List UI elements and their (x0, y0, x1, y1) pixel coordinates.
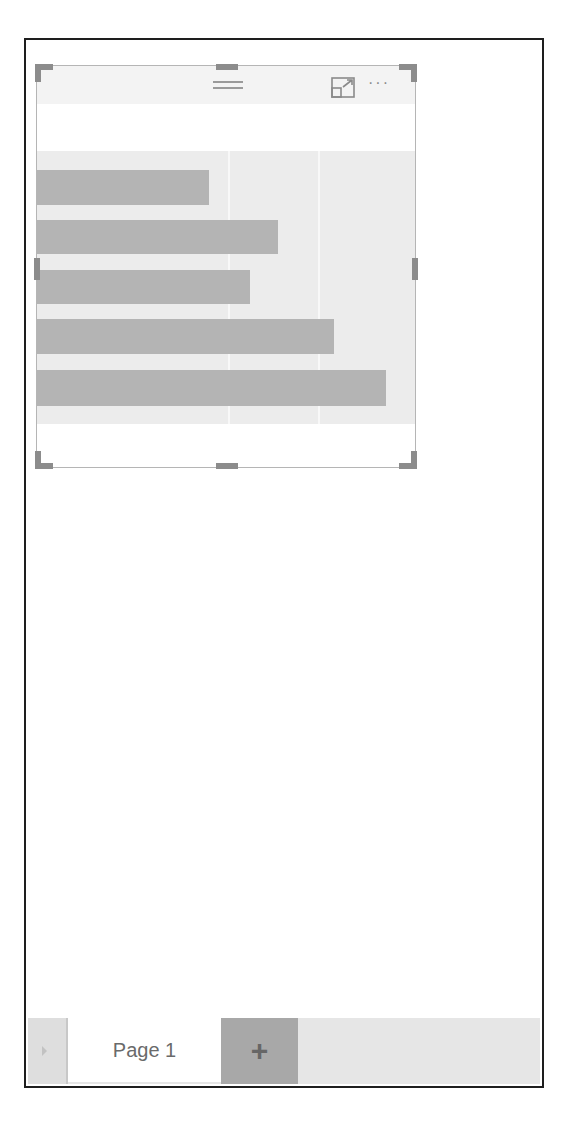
more-options-icon[interactable]: ··· (368, 74, 390, 92)
tab-label: Page 1 (113, 1039, 176, 1062)
tab-scroll-button[interactable] (28, 1018, 68, 1084)
bar-5[interactable] (37, 370, 386, 406)
bar-chart-visual[interactable]: ··· (36, 65, 416, 468)
resize-handle-top-right[interactable] (411, 64, 417, 82)
scroll-left-icon (42, 1046, 47, 1056)
plus-icon: + (251, 1034, 269, 1068)
resize-handle-right[interactable] (412, 258, 418, 280)
resize-handle-top[interactable] (216, 64, 238, 70)
focus-mode-icon[interactable] (331, 77, 355, 98)
resize-handle-top-left[interactable] (35, 64, 41, 82)
bar-3[interactable] (37, 270, 250, 304)
page-tab-bar: Page 1 + (28, 1018, 540, 1084)
resize-handle-bottom[interactable] (216, 463, 238, 469)
add-page-button[interactable]: + (221, 1018, 298, 1084)
resize-handle-bottom-left[interactable] (35, 451, 41, 469)
tab-page-1[interactable]: Page 1 (68, 1018, 221, 1082)
visual-header: ··· (37, 66, 415, 104)
resize-handle-bottom-right[interactable] (411, 451, 417, 469)
bar-2[interactable] (37, 220, 278, 254)
resize-handle-left[interactable] (34, 258, 40, 280)
bar-4[interactable] (37, 319, 334, 354)
drag-handle-icon[interactable] (213, 81, 243, 89)
bar-1[interactable] (37, 170, 209, 205)
chart-plot-area (37, 151, 415, 424)
